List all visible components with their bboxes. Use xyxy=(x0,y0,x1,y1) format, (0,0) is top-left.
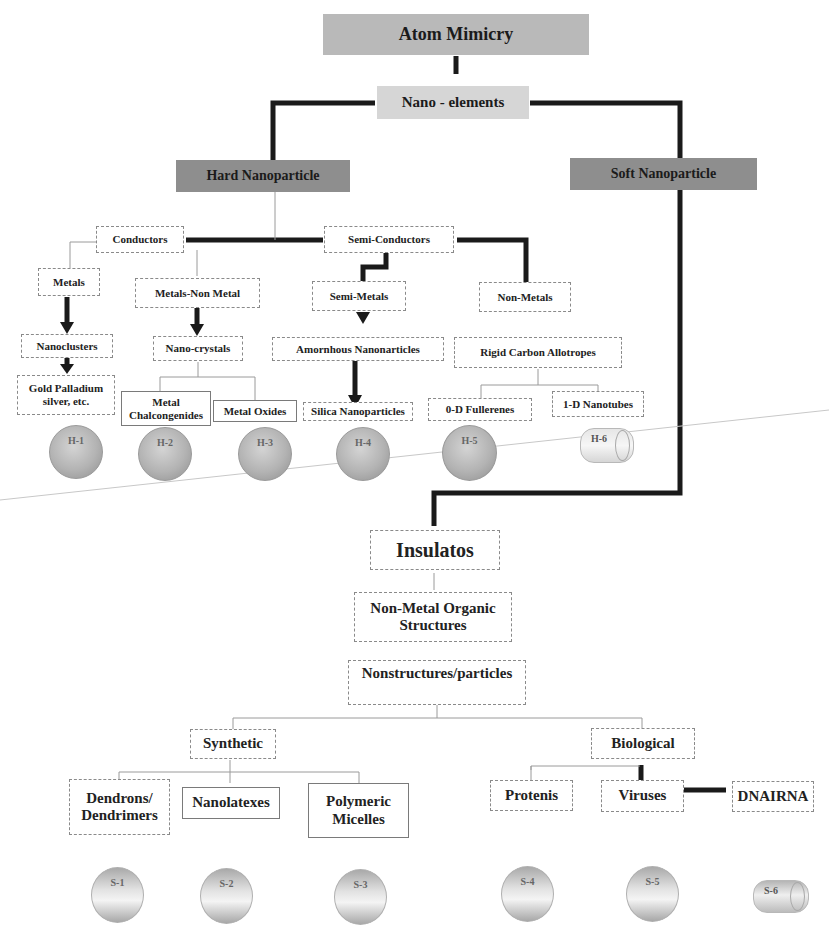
soft-particle-sphere-icon: S-2 xyxy=(200,868,253,924)
insulators-node: Insulatos xyxy=(370,530,500,570)
cylinder-cap xyxy=(615,430,630,461)
silica-nanoparticles-node: Silica Nanoparticles xyxy=(303,402,413,421)
polymeric-micelles-node: Polymeric Micelles xyxy=(308,783,409,838)
nanolatexes-node: Nanolatexes xyxy=(182,787,280,819)
semi-conductors-node: Semi-Conductors xyxy=(324,226,454,253)
soft-cylinder-icon: S-6 xyxy=(753,880,809,913)
hard-particle-sphere-icon: H-4 xyxy=(336,427,390,481)
nano-elements-node: Nano - elements xyxy=(377,86,529,119)
rigid-carbon-allotropes-node: Rigid Carbon Allotropes xyxy=(454,337,622,368)
nonstructures-particles-node: Nonstructures/particles xyxy=(348,660,526,705)
soft-particle-sphere-icon: S-5 xyxy=(626,866,679,922)
hard-particle-sphere-icon: H-2 xyxy=(138,427,192,481)
metals-non-metal-node: Metals-Non Metal xyxy=(135,278,260,308)
metals-node: Metals xyxy=(38,268,100,296)
soft-particle-sphere-icon: S-3 xyxy=(334,869,387,925)
dendrons-dendrimers-node: Dendrons/ Dendrimers xyxy=(69,779,170,835)
non-metals-node: Non-Metals xyxy=(479,282,571,312)
hard-particle-sphere-icon: H-3 xyxy=(238,427,292,481)
non-metal-organic-structures-node: Non-Metal Organic Structures xyxy=(354,592,512,642)
hard-particle-sphere-icon: H-5 xyxy=(442,425,497,481)
soft-particle-sphere-icon: S-1 xyxy=(91,867,144,923)
nanotubes-node: 1-D Nanotubes xyxy=(552,391,644,417)
soft-particle-sphere-icon: S-4 xyxy=(501,866,554,922)
soft-nanoparticle-node: Soft Nanoparticle xyxy=(570,158,757,190)
nano-crystals-node: Nano-crystals xyxy=(153,336,243,361)
soft-particle-label: S-6 xyxy=(764,885,778,912)
proteins-node: Protenis xyxy=(490,780,573,811)
nanotube-cylinder-icon: H-6 xyxy=(580,428,634,463)
hard-particle-sphere-icon: H-1 xyxy=(49,425,103,479)
conductors-node: Conductors xyxy=(96,226,184,253)
metal-chalcogenides-node: Metal Chalcongenides xyxy=(121,391,211,426)
synthetic-node: Synthetic xyxy=(190,729,276,759)
hard-particle-label: H-6 xyxy=(591,433,607,462)
fullerenes-node: 0-D Fullerenes xyxy=(428,398,532,421)
amorphous-nanoparticles-node: Amornhous Nanonarticles xyxy=(272,337,444,361)
root-node-atom-mimicry: Atom Mimicry xyxy=(323,14,589,55)
nanoclusters-node: Nanoclusters xyxy=(21,334,113,358)
dna-rna-node: DNAIRNA xyxy=(732,781,814,812)
hard-nanoparticle-node: Hard Nanoparticle xyxy=(176,160,350,192)
cylinder-cap xyxy=(790,882,805,911)
metal-oxides-node: Metal Oxides xyxy=(213,400,297,422)
gold-palladium-node: Gold Palladium silver, etc. xyxy=(17,375,115,415)
biological-node: Biological xyxy=(591,728,695,759)
semi-metals-node: Semi-Metals xyxy=(312,281,406,311)
viruses-node: Viruses xyxy=(601,780,684,812)
